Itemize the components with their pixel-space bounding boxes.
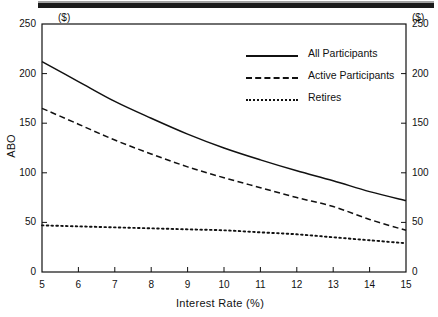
y-tick-label-right: 250: [412, 19, 438, 29]
x-tick-label: 8: [141, 280, 161, 290]
y-tick-label-right: 150: [412, 118, 438, 128]
legend-label: Active Participants: [308, 69, 394, 81]
y-tick-label-right: 100: [412, 168, 438, 178]
x-tick-label: 13: [323, 280, 343, 290]
x-tick-label: 15: [396, 280, 416, 290]
legend-swatch-dashed-icon: [246, 77, 298, 79]
series-line: [42, 225, 406, 243]
x-tick-label: 6: [68, 280, 88, 290]
legend-label: All Participants: [308, 47, 377, 59]
x-tick-label: 7: [105, 280, 125, 290]
legend-swatch-dotted-icon: [246, 99, 298, 101]
x-tick-label: 11: [250, 280, 270, 290]
y-tick-label: 100: [10, 168, 36, 178]
legend-item-all-participants: All Participants: [246, 46, 406, 68]
y-tick-label: 200: [10, 69, 36, 79]
x-tick-label: 14: [360, 280, 380, 290]
y-tick-label-right: 200: [412, 69, 438, 79]
y-tick-label: 150: [10, 118, 36, 128]
y-tick-label-right: 50: [412, 217, 438, 227]
legend-swatch-solid-icon: [246, 55, 298, 57]
legend: All Participants Active Participants Ret…: [246, 46, 406, 112]
y-tick-label: 0: [10, 267, 36, 277]
x-tick-label: 9: [178, 280, 198, 290]
legend-label: Retires: [308, 91, 341, 103]
legend-item-retires: Retires: [246, 90, 406, 112]
x-tick-label: 12: [287, 280, 307, 290]
y-tick-label: 50: [10, 217, 36, 227]
x-tick-label: 10: [214, 280, 234, 290]
legend-item-active-participants: Active Participants: [246, 68, 406, 90]
y-tick-label-right: 0: [412, 267, 438, 277]
y-tick-label: 250: [10, 19, 36, 29]
chart-figure: ($) ($) ABO Interest Rate (%) 0501001502…: [0, 0, 438, 317]
x-tick-label: 5: [32, 280, 52, 290]
series-line: [42, 108, 406, 230]
